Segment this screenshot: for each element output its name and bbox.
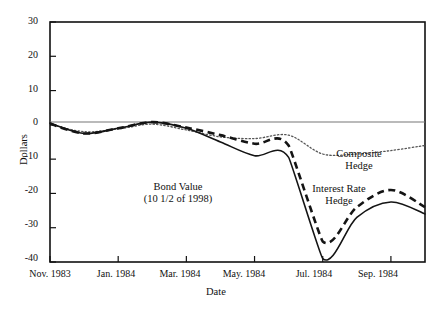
plot-frame [50, 22, 425, 262]
y-tick-label: -30 [8, 218, 38, 229]
y-tick-label: -20 [8, 184, 38, 195]
x-axis-ticks [50, 256, 391, 262]
chart-figure: 30 20 10 0 -10 -20 -30 -40 Dollars Nov. … [0, 0, 443, 317]
annotation-composite-hedge-line1: Composite [316, 148, 402, 160]
y-tick-label: 0 [8, 116, 38, 127]
annotation-composite-hedge-line2: Hedge [316, 160, 402, 172]
y-axis-ticks [50, 22, 56, 262]
annotation-bond-value: Bond Value (10 1/2 of 1998) [118, 181, 238, 205]
y-axis-title: Dollars [18, 134, 29, 165]
y-tick-label: 30 [8, 15, 38, 26]
annotation-bond-value-line2: (10 1/2 of 1998) [118, 193, 238, 205]
annotation-interest-rate-hedge-line1: Interest Rate [296, 183, 382, 195]
x-tick-label: Sep. 1984 [336, 268, 420, 279]
y-tick-label: 10 [8, 83, 38, 94]
annotation-interest-rate-hedge: Interest Rate Hedge [296, 183, 382, 207]
annotation-interest-rate-hedge-line2: Hedge [296, 195, 382, 207]
annotation-composite-hedge: Composite Hedge [316, 148, 402, 172]
y-tick-label: 20 [8, 49, 38, 60]
annotation-bond-value-line1: Bond Value [118, 181, 238, 193]
y-tick-label: -40 [8, 252, 38, 263]
x-axis-title: Date [206, 286, 226, 297]
